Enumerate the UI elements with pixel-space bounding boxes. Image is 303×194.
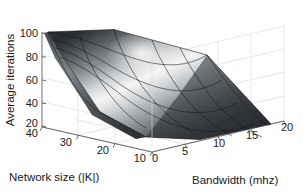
- z-tick-40: 40: [26, 97, 38, 109]
- z-tick-60: 60: [26, 74, 38, 86]
- z-tick-labels: 100 80 60 40 20: [20, 27, 38, 129]
- plot-canvas: 100 80 60 40 20 40 30 20 10 0 5 10 15 20…: [0, 0, 303, 194]
- surface-plot-figure: 100 80 60 40 20 40 30 20 10 0 5 10 15 20…: [0, 0, 303, 194]
- y-axis-title: Network size (|K|): [9, 171, 99, 183]
- x-tick-20: 20: [281, 121, 293, 133]
- x-tick-10: 10: [213, 137, 225, 149]
- x-tick-15: 15: [246, 129, 258, 141]
- y-tick-20: 20: [97, 144, 109, 156]
- z-tick-80: 80: [26, 51, 38, 63]
- x-tick-5: 5: [182, 145, 188, 157]
- x-tick-0: 0: [152, 152, 158, 164]
- y-tick-30: 30: [60, 136, 72, 148]
- y-tick-10: 10: [134, 152, 146, 164]
- z-axis-title: Average iterations: [4, 34, 16, 127]
- x-axis-title: Bandwidth (mhz): [192, 174, 278, 186]
- z-tick-100: 100: [20, 27, 38, 39]
- y-tick-40: 40: [26, 127, 38, 139]
